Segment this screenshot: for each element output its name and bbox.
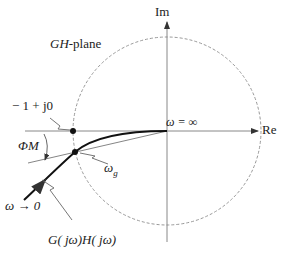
phase-margin-label: ΦM — [18, 138, 39, 154]
gain-crossover-dot — [72, 149, 78, 155]
nyquist-diagram: GH-plane Im Re − 1 + j0 ω = ∞ ΦM ωg ω → … — [0, 0, 305, 254]
curve-label: G( jω)H( jω) — [48, 232, 116, 248]
plane-title: GH-plane — [50, 36, 101, 52]
diagram-canvas — [0, 0, 305, 254]
omega-zero-label: ω → 0 — [5, 198, 40, 214]
critical-point-label: − 1 + j0 — [12, 98, 53, 114]
critical-point-dot — [70, 128, 76, 134]
nyquist-curve — [24, 131, 167, 200]
real-axis-label: Re — [262, 122, 276, 138]
omega-inf-label: ω = ∞ — [166, 115, 197, 130]
imag-axis-label: Im — [155, 4, 169, 20]
phase-margin-line — [28, 131, 167, 163]
phase-margin-arc — [44, 134, 47, 160]
omega-g-label: ωg — [104, 160, 118, 178]
